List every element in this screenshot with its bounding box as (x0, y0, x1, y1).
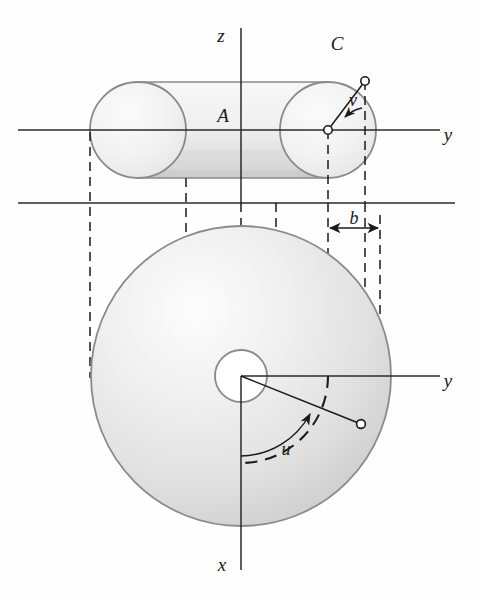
angle-v-label: v (349, 90, 357, 110)
y-axis-label-upper: y (442, 124, 453, 145)
torus-figure: z y A C v a b (0, 0, 478, 599)
dimension-b-label: b (350, 208, 359, 228)
angle-u-label: u (282, 439, 291, 459)
curve-c-label: C (331, 33, 344, 54)
tube-center-point (324, 126, 332, 134)
tube-surface-point (361, 77, 369, 85)
region-a-label: A (215, 105, 229, 126)
figure-canvas: z y A C v a b (0, 0, 478, 599)
upper-elevation-view: z y A C v (18, 25, 453, 203)
plan-surface-point (357, 420, 366, 429)
lower-plan-view: y x u (91, 226, 453, 575)
tube-shading-band-dark (150, 170, 316, 178)
y-axis-label-lower: y (442, 370, 453, 391)
z-axis-label: z (216, 25, 225, 46)
x-axis-label: x (217, 554, 227, 575)
dimension-b: b (330, 208, 378, 228)
